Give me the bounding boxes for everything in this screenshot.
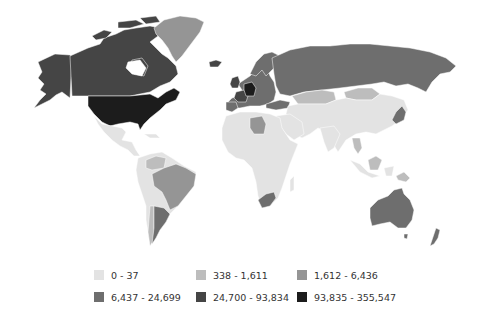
legend-label: 93,835 - 355,547: [314, 292, 396, 303]
legend-swatch: [196, 270, 206, 280]
region-caribbean[interactable]: [144, 134, 160, 138]
legend-label: 24,700 - 93,834: [213, 292, 289, 303]
legend-label: 338 - 1,611: [213, 270, 268, 281]
region-australia[interactable]: [370, 188, 414, 228]
legend-label: 1,612 - 6,436: [314, 270, 378, 281]
legend-swatch: [94, 270, 104, 280]
legend-item-2: 1,612 - 6,436: [297, 268, 378, 282]
region-new-zealand[interactable]: [430, 228, 440, 246]
legend-swatch: [297, 270, 307, 280]
region-alaska[interactable]: [34, 54, 72, 108]
region-madagascar[interactable]: [290, 176, 294, 192]
map-legend: 0 - 37 338 - 1,611 1,612 - 6,436 6,437 -…: [0, 262, 479, 312]
region-papua-new-guinea[interactable]: [396, 172, 410, 182]
region-borneo[interactable]: [368, 156, 382, 170]
legend-swatch: [196, 292, 206, 302]
legend-item-4: 24,700 - 93,834: [196, 290, 289, 304]
region-libya[interactable]: [250, 116, 266, 134]
legend-item-3: 6,437 - 24,699: [94, 290, 181, 304]
region-thailand[interactable]: [352, 138, 362, 154]
region-tasmania[interactable]: [404, 234, 408, 239]
legend-label: 6,437 - 24,699: [111, 292, 181, 303]
legend-item-1: 338 - 1,611: [196, 268, 268, 282]
region-spain[interactable]: [226, 102, 238, 112]
region-iceland[interactable]: [209, 60, 222, 67]
region-united-kingdom[interactable]: [230, 76, 240, 88]
region-argentina[interactable]: [152, 206, 170, 244]
legend-label: 0 - 37: [111, 270, 139, 281]
legend-item-0: 0 - 37: [94, 268, 139, 282]
world-choropleth-map: [0, 0, 479, 258]
legend-item-5: 93,835 - 355,547: [297, 290, 396, 304]
legend-swatch: [297, 292, 307, 302]
legend-swatch: [94, 292, 104, 302]
